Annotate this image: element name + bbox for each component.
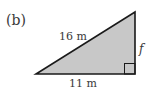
- hypotenuse-label: 16 m: [59, 30, 87, 43]
- figure-label: (b): [6, 12, 26, 28]
- triangle: [36, 12, 135, 74]
- right-triangle-diagram: (b) 16 m 11 m f: [0, 0, 150, 90]
- side-label: f: [138, 42, 146, 56]
- base-label: 11 m: [69, 77, 97, 90]
